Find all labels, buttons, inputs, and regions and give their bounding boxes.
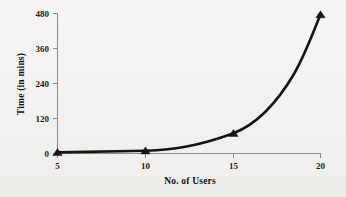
chart-figure: 480 360 240 120 0 5 10 15 20 Time (in mi… — [0, 0, 346, 197]
y-tick-label-120: 120 — [36, 114, 50, 124]
x-tick-label-15: 15 — [229, 161, 239, 171]
x-axis-title: No. of Users — [164, 176, 216, 186]
y-tick-label-0: 0 — [45, 149, 50, 159]
y-tick-label-480: 480 — [36, 9, 50, 19]
data-series-line — [58, 15, 321, 153]
x-tick-label-20: 20 — [316, 161, 326, 171]
y-axis-title: Time (in mins) — [16, 53, 27, 115]
x-tick-label-10: 10 — [141, 161, 151, 171]
y-tick-label-240: 240 — [36, 79, 50, 89]
data-point-marker-20 — [316, 11, 325, 18]
y-tick-label-360: 360 — [36, 44, 50, 54]
x-tick-label-5: 5 — [55, 161, 60, 171]
line-chart-plot: 480 360 240 120 0 5 10 15 20 Time (in mi… — [0, 0, 346, 197]
